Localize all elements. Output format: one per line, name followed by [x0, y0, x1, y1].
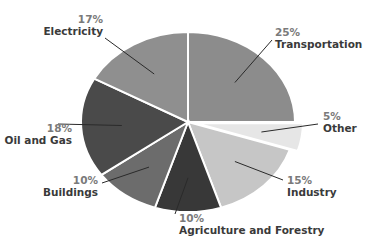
pct-oil-and-gas: 18%: [47, 122, 73, 134]
pct-transportation: 25%: [275, 26, 301, 38]
name-buildings: Buildings: [43, 186, 98, 198]
label-agriculture: 10% Agriculture and Forestry: [179, 212, 325, 236]
pct-agriculture: 10%: [179, 212, 205, 224]
pie-chart: 25% Transportation 5% Other 15% Industry…: [0, 0, 368, 248]
pct-industry: 15%: [287, 174, 313, 186]
name-industry: Industry: [287, 186, 337, 198]
label-other: 5% Other: [323, 110, 358, 134]
name-agriculture: Agriculture and Forestry: [179, 224, 325, 236]
name-oil-and-gas: Oil and Gas: [5, 134, 72, 146]
label-buildings: 10% Buildings: [43, 174, 99, 198]
pct-buildings: 10%: [73, 174, 99, 186]
name-electricity: Electricity: [43, 25, 103, 37]
label-industry: 15% Industry: [287, 174, 337, 198]
name-transportation: Transportation: [275, 38, 362, 50]
label-oil-and-gas: 18% Oil and Gas: [5, 122, 73, 146]
pct-electricity: 17%: [78, 13, 104, 25]
name-other: Other: [323, 122, 358, 134]
pct-other: 5%: [323, 110, 341, 122]
pie-slices: [81, 32, 303, 212]
label-transportation: 25% Transportation: [275, 26, 362, 50]
label-electricity: 17% Electricity: [43, 13, 103, 37]
